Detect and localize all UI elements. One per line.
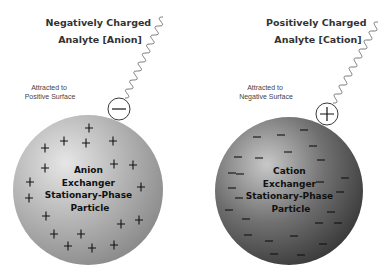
cation-note-line-2: Negative Surface [239,93,293,101]
anion-title-line-1: Negatively Charged [46,17,152,28]
anion-label-line-2: Exchanger [62,178,116,188]
cation-note-line-1: Attracted to [247,84,283,91]
cation-title-line-1: Positively Charged [266,17,366,28]
cation-panel: Positively Charged Analyte [Cation] Attr… [215,17,378,265]
cation-title-line-2: Analyte [Cation] [274,34,361,45]
anion-label-line-3: Stationary-Phase [45,190,133,200]
anion-title-line-2: Analyte [Anion] [58,34,142,45]
anion-label-line-4: Particle [71,203,110,213]
anion-note-line-1: Attracted to [31,84,67,91]
anion-squiggle-tail [125,17,163,98]
anion-panel: Negatively Charged Analyte [Anion] Attra… [13,17,163,265]
ion-exchange-diagram: Negatively Charged Analyte [Anion] Attra… [0,0,392,278]
cation-label-line-4: Particle [272,204,311,214]
anion-attracted-note: Attracted to Positive Surface [25,84,76,100]
cation-label-line-3: Stationary-Phase [246,191,334,201]
cation-analyte [316,103,338,125]
cation-attracted-note: Attracted to Negative Surface [239,84,293,101]
anion-note-line-2: Positive Surface [25,93,76,100]
anion-label-line-1: Anion [74,165,103,175]
cation-label-line-2: Exchanger [263,179,317,189]
cation-analyte-title: Positively Charged Analyte [Cation] [266,17,370,45]
anion-analyte-title: Negatively Charged Analyte [Anion] [46,17,155,45]
anion-analyte [108,98,130,120]
cation-label-line-1: Cation [273,166,306,176]
